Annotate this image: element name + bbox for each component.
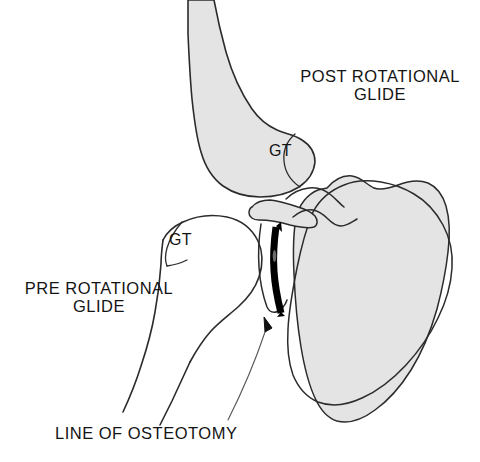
anatomical-figure: POST ROTATIONAL GLIDE PRE ROTATIONAL GLI… <box>0 0 480 462</box>
label-post-rotational-glide: POST ROTATIONAL GLIDE <box>285 67 475 104</box>
greater-tuberosity-tick-pre <box>167 260 187 266</box>
osteotomy-leader-line <box>228 332 265 420</box>
label-greater-tuberosity-pre: GT <box>169 231 192 249</box>
osteotomy-line <box>274 227 281 313</box>
humerus-pre-outline-neck <box>123 240 163 412</box>
label-greater-tuberosity-post: GT <box>269 142 292 160</box>
label-line-of-osteotomy: LINE OF OSTEOTOMY <box>55 424 315 442</box>
label-pre-rotational-glide: PRE ROTATIONAL GLIDE <box>4 279 194 316</box>
scapula-post-shaded <box>293 176 449 422</box>
osteotomy-notch <box>273 250 277 262</box>
humerus-pre-shaft-lateral <box>160 362 190 425</box>
osteotomy-arrowhead <box>264 317 272 332</box>
